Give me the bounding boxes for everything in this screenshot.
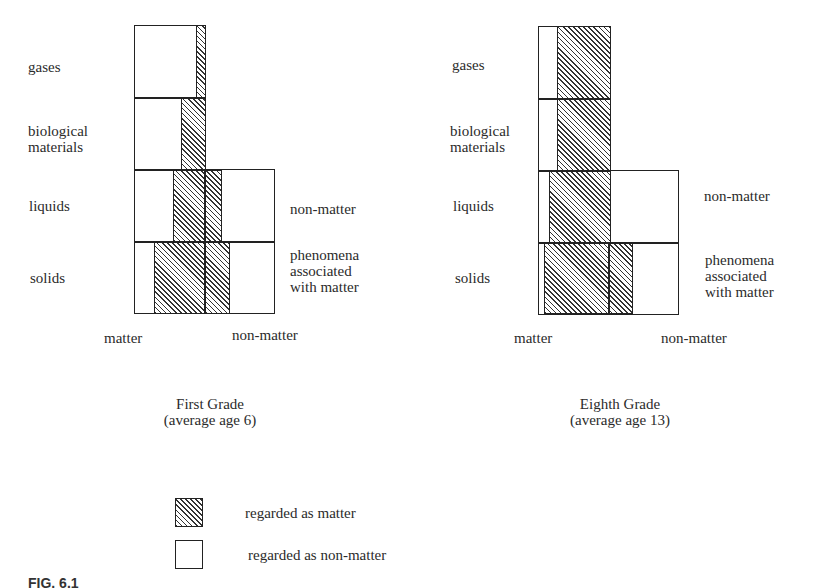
axis-label-matter: matter <box>514 331 552 346</box>
row-label-materials: materials <box>450 140 505 155</box>
label-phenomena-1: phenomena <box>705 253 774 268</box>
cell-gases <box>134 25 206 99</box>
label-phenomena-2: associated <box>290 264 352 279</box>
panel-subtitle: (average age 6) <box>130 413 290 428</box>
panel-title: First Grade <box>130 397 290 412</box>
row-label-liquids: liquids <box>29 199 70 214</box>
label-non-matter: non-matter <box>290 202 356 217</box>
matter-nonmatter-divider <box>608 242 610 314</box>
row-label-materials: materials <box>28 140 83 155</box>
figure-caption: FIG. 6.1 <box>28 575 79 588</box>
cell-gases <box>538 26 611 100</box>
axis-label-non-matter: non-matter <box>661 331 727 346</box>
label-phenomena-1: phenomena <box>290 248 359 263</box>
label-phenomena-3: with matter <box>290 280 359 295</box>
panel-subtitle: (average age 13) <box>540 413 700 428</box>
legend-label-matter: regarded as matter <box>245 506 356 521</box>
matter-nonmatter-divider <box>204 170 206 313</box>
label-phenomena-2: associated <box>705 269 767 284</box>
cell-bio <box>134 97 206 171</box>
row-label-solids: solids <box>30 271 65 286</box>
row-label-biological: biological <box>450 124 510 139</box>
axis-label-matter: matter <box>104 331 142 346</box>
figure-caption-prefix: FIG. 6.1 <box>28 575 79 588</box>
row-label-gases: gases <box>28 60 61 75</box>
axis-label-non-matter: non-matter <box>232 328 298 343</box>
label-phenomena-3: with matter <box>705 285 774 300</box>
legend-label-non-matter: regarded as non-matter <box>248 548 386 563</box>
legend-swatch-non-matter <box>175 540 203 569</box>
cell-liquids <box>538 170 679 244</box>
label-non-matter: non-matter <box>704 189 770 204</box>
cell-bio <box>538 98 611 172</box>
row-label-liquids: liquids <box>453 199 494 214</box>
row-label-solids: solids <box>455 271 490 286</box>
row-label-gases: gases <box>452 58 485 73</box>
row-label-biological: biological <box>28 124 88 139</box>
legend-swatch-matter <box>175 498 203 527</box>
panel-title: Eighth Grade <box>540 397 700 412</box>
